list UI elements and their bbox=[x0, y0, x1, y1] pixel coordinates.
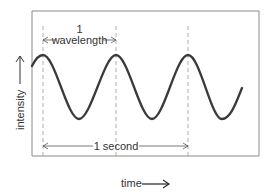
plot-frame bbox=[32, 11, 259, 156]
intensity-label: intensity bbox=[14, 89, 26, 130]
one-second-label: 1 second bbox=[94, 140, 139, 152]
wavelength-label: wavelength bbox=[51, 34, 108, 46]
time-right-arrow-icon bbox=[142, 180, 169, 188]
wave-diagram: 1 wavelength 1 second intensity time bbox=[0, 0, 274, 195]
sine-wave bbox=[32, 55, 242, 119]
intensity-up-arrow-icon bbox=[16, 56, 24, 84]
time-label: time bbox=[121, 177, 142, 189]
